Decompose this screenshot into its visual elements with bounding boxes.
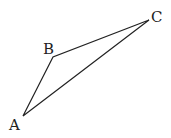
- triangle-diagram: A B C: [0, 0, 171, 138]
- vertex-label-c: C: [151, 8, 162, 26]
- vertex-label-a: A: [8, 116, 20, 134]
- triangle-abc: [23, 20, 149, 116]
- vertex-label-b: B: [43, 40, 54, 58]
